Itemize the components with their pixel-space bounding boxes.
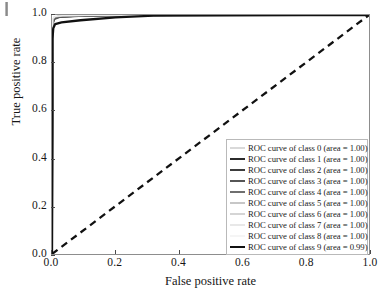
legend-item-class-7: ROC curve of class 7 (area = 1.00) xyxy=(229,219,364,230)
roc-curve-figure: 0.00.20.40.60.81.0 0.00.20.40.60.81.0 Fa… xyxy=(0,0,389,300)
legend-item-class-2: ROC curve of class 2 (area = 1.00) xyxy=(229,164,364,175)
legend-line-swatch-class-1 xyxy=(229,153,246,164)
legend-line-swatch-class-3 xyxy=(229,175,246,186)
legend-label-class-2: ROC curve of class 2 (area = 1.00) xyxy=(246,165,367,175)
legend-line-swatch-class-7 xyxy=(229,219,246,230)
x-tick-mark xyxy=(51,250,52,254)
legend-item-class-0: ROC curve of class 0 (area = 1.00) xyxy=(229,142,364,153)
y-tick-label: 1.0 xyxy=(9,6,47,18)
legend-label-class-0: ROC curve of class 0 (area = 1.00) xyxy=(246,143,367,153)
legend-item-class-8: ROC curve of class 8 (area = 1.00) xyxy=(229,230,364,241)
y-tick-mark xyxy=(51,255,55,256)
legend-line-swatch-class-9 xyxy=(229,241,246,252)
legend-line-swatch-class-8 xyxy=(229,230,246,241)
legend-item-class-3: ROC curve of class 3 (area = 1.00) xyxy=(229,175,364,186)
y-tick-mark xyxy=(51,62,55,63)
x-tick-label: 0.8 xyxy=(286,256,326,268)
y-tick-mark xyxy=(51,159,55,160)
legend-label-class-9: ROC curve of class 9 (area = 0.99) xyxy=(246,242,367,252)
y-tick-mark xyxy=(51,110,55,111)
x-tick-mark xyxy=(179,250,180,254)
y-tick-label: 0.0 xyxy=(9,247,47,259)
legend-item-class-4: ROC curve of class 4 (area = 1.00) xyxy=(229,186,364,197)
legend-line-swatch-class-2 xyxy=(229,164,246,175)
y-tick-mark xyxy=(51,14,55,15)
legend-label-class-7: ROC curve of class 7 (area = 1.00) xyxy=(246,220,367,230)
legend-item-class-5: ROC curve of class 5 (area = 1.00) xyxy=(229,197,364,208)
y-tick-label: 0.4 xyxy=(9,151,47,163)
legend-line-swatch-class-6 xyxy=(229,208,246,219)
x-tick-label: 0.4 xyxy=(159,256,199,268)
chart-legend: ROC curve of class 0 (area = 1.00)ROC cu… xyxy=(226,139,368,255)
legend-label-class-1: ROC curve of class 1 (area = 1.00) xyxy=(246,154,367,164)
legend-item-class-1: ROC curve of class 1 (area = 1.00) xyxy=(229,153,364,164)
legend-line-swatch-class-4 xyxy=(229,186,246,197)
x-tick-label: 1.0 xyxy=(350,256,389,268)
legend-label-class-3: ROC curve of class 3 (area = 1.00) xyxy=(246,176,367,186)
legend-label-class-4: ROC curve of class 4 (area = 1.00) xyxy=(246,187,367,197)
y-axis-title: True positive rate xyxy=(9,22,24,142)
legend-line-swatch-class-5 xyxy=(229,197,246,208)
x-tick-mark xyxy=(115,250,116,254)
x-axis-title: False positive rate xyxy=(51,274,370,289)
x-tick-label: 0.6 xyxy=(222,256,262,268)
legend-label-class-8: ROC curve of class 8 (area = 1.00) xyxy=(246,231,367,241)
y-tick-label: 0.2 xyxy=(9,199,47,211)
legend-item-class-6: ROC curve of class 6 (area = 1.00) xyxy=(229,208,364,219)
legend-label-class-6: ROC curve of class 6 (area = 1.00) xyxy=(246,209,367,219)
scan-edge-artifact xyxy=(5,2,8,16)
legend-label-class-5: ROC curve of class 5 (area = 1.00) xyxy=(246,198,367,208)
legend-line-swatch-class-0 xyxy=(229,142,246,153)
x-tick-label: 0.2 xyxy=(95,256,135,268)
x-tick-mark xyxy=(370,250,371,254)
legend-item-class-9: ROC curve of class 9 (area = 0.99) xyxy=(229,241,364,252)
y-tick-mark xyxy=(51,207,55,208)
